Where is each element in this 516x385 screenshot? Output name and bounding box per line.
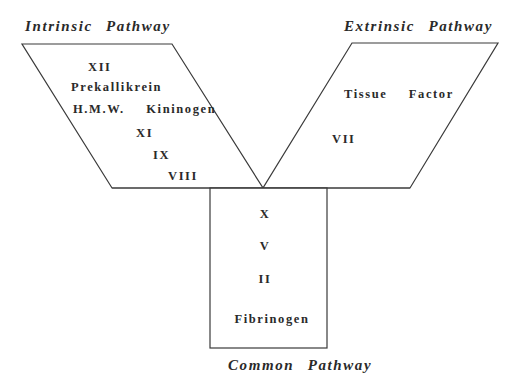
factor-ix: IX: [153, 148, 170, 162]
extrinsic-pathway-group: Extrinsic Pathway Tissue Factor VII: [263, 18, 498, 188]
factor-xi: XI: [136, 126, 153, 140]
factor-v: V: [260, 239, 271, 253]
intrinsic-pathway-title: Intrinsic Pathway: [24, 18, 171, 34]
factor-xii: XII: [88, 60, 112, 74]
factor-viii: VIII: [168, 169, 198, 183]
factor-hmw-kininogen: H.M.W. Kininogen: [73, 102, 216, 116]
intrinsic-pathway-group: Intrinsic Pathway XII Prekallikrein H.M.…: [22, 18, 263, 188]
factor-vii: VII: [332, 132, 356, 146]
common-pathway-title: Common Pathway: [228, 357, 372, 373]
factor-tissue-factor: Tissue Factor: [344, 87, 454, 101]
common-pathway-group: X V II Fibrinogen Common Pathway: [210, 188, 372, 373]
extrinsic-pathway-box: [263, 43, 498, 188]
extrinsic-pathway-title: Extrinsic Pathway: [343, 18, 493, 34]
coagulation-diagram: Intrinsic Pathway XII Prekallikrein H.M.…: [0, 0, 516, 385]
factor-x: X: [260, 207, 271, 221]
factor-ii: II: [259, 272, 272, 286]
factor-fibrinogen: Fibrinogen: [234, 312, 309, 326]
intrinsic-pathway-box: [22, 44, 263, 188]
factor-prekallikrein: Prekallikrein: [71, 80, 162, 94]
